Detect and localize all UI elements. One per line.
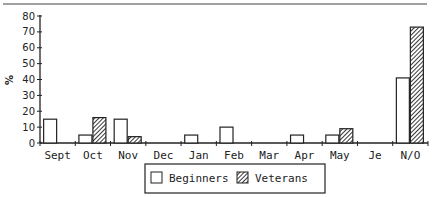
bar-beginners-jan <box>185 135 198 143</box>
bar-beginners-sept <box>44 119 57 143</box>
x-tick-label: N/O <box>400 149 420 162</box>
bar-veterans-may <box>340 129 353 143</box>
x-tick-label: Dec <box>154 149 174 162</box>
bar-beginners-may <box>326 135 339 143</box>
x-tick-label: Feb <box>224 149 244 162</box>
x-tick-label: Nov <box>118 149 138 162</box>
y-tick-label: 0 <box>29 138 35 149</box>
y-tick-label: 40 <box>22 74 35 85</box>
bar-beginners-feb <box>220 127 233 143</box>
bar-beginners-apr <box>291 135 304 143</box>
x-tick-label: Je <box>368 149 381 162</box>
y-tick-label: 30 <box>22 90 35 101</box>
bar-beginners-no <box>396 78 409 143</box>
x-tick-label: Oct <box>83 149 103 162</box>
legend-swatch-beginners <box>151 172 162 183</box>
legend-label-beginners: Beginners <box>169 172 229 185</box>
x-tick-label: May <box>330 149 350 162</box>
bar-veterans-nov <box>128 137 141 143</box>
bar-beginners-nov <box>114 119 127 143</box>
bars <box>44 27 424 143</box>
y-tick-label: 10 <box>22 122 35 133</box>
y-axis: 01020304050607080 <box>22 11 42 149</box>
legend-label-veterans: Veterans <box>255 172 308 185</box>
bar-veterans-oct <box>93 118 106 143</box>
y-tick-label: 50 <box>22 58 35 69</box>
legend: Beginners Veterans <box>145 164 325 193</box>
y-tick-label: 80 <box>22 11 35 22</box>
bar-veterans-no <box>410 27 423 143</box>
x-tick-label: Apr <box>295 149 315 162</box>
y-tick-label: 20 <box>22 106 35 117</box>
bar-chart: 01020304050607080 SeptOctNovDecJanFebMar… <box>0 0 434 197</box>
x-tick-label: Sept <box>44 149 71 162</box>
y-tick-label: 60 <box>22 42 35 53</box>
x-tick-label: Jan <box>189 149 209 162</box>
y-tick-label: 70 <box>22 26 35 37</box>
y-axis-label: % <box>4 75 15 85</box>
x-axis: SeptOctNovDecJanFebMarAprMayJeN/O <box>40 141 428 162</box>
legend-swatch-veterans <box>237 172 248 183</box>
x-tick-label: Mar <box>259 149 279 162</box>
bar-beginners-oct <box>79 135 92 143</box>
